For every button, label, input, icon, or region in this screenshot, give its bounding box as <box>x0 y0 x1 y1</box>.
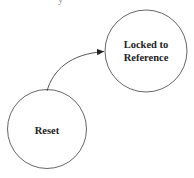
state-locked-to-reference: Locked to Reference <box>105 10 187 92</box>
state-label-locked-line2: Reference <box>124 52 169 63</box>
transition-reset-to-locked <box>47 52 104 92</box>
state-reset: Reset <box>8 90 87 169</box>
cutoff-top-text: y <box>58 0 63 5</box>
state-label-locked-line1: Locked to <box>124 39 169 50</box>
state-diagram: y Locked to Reference Reset <box>0 0 194 178</box>
state-label-reset: Reset <box>35 125 60 136</box>
state-circle-locked <box>105 10 187 92</box>
